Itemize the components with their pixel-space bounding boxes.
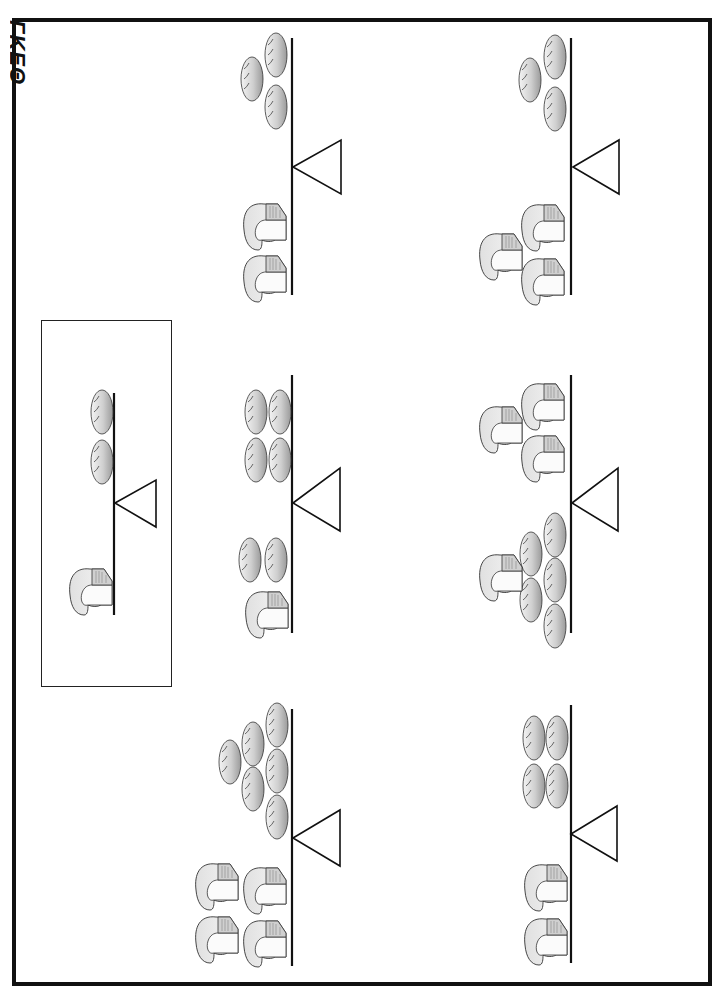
example-box bbox=[41, 320, 172, 687]
worksheet-title: ΓΚΕΘ bbox=[10, 20, 30, 120]
